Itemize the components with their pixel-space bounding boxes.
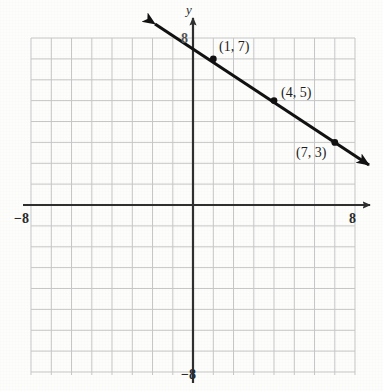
point-label-7-3: (7, 3): [296, 146, 326, 160]
point-marker-1-7: [210, 56, 217, 63]
coordinate-plane-figure: y 8 −8 8 −8 (1, 7) (4, 5) (7, 3): [0, 0, 383, 391]
y-axis-tick-label-minus8: −8: [181, 368, 196, 382]
point-marker-7-3: [331, 139, 338, 146]
point-label-4-5: (4, 5): [281, 86, 311, 100]
point-marker-4-5: [271, 97, 278, 104]
point-label-1-7: (1, 7): [219, 40, 249, 54]
y-axis-tick-label-8: 8: [181, 32, 188, 46]
x-axis-tick-label-minus8: −8: [14, 212, 29, 226]
y-axis-name-label: y: [186, 3, 192, 16]
x-axis-tick-label-8: 8: [349, 212, 356, 226]
graph-canvas: [0, 0, 383, 391]
